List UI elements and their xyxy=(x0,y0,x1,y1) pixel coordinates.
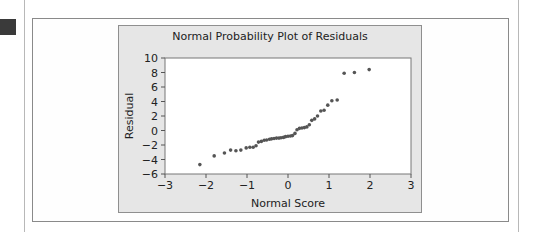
data-point xyxy=(353,71,357,75)
data-point xyxy=(308,123,312,127)
y-axis-label: Residual xyxy=(123,93,136,139)
scatter-plot: 1086420−2−4−6 −3−2−10123 Normal Score Re… xyxy=(0,0,535,232)
data-point xyxy=(229,148,233,152)
y-tick-label: 6 xyxy=(151,81,158,94)
x-tick-label: −3 xyxy=(157,179,173,192)
x-tick-label: −2 xyxy=(198,179,214,192)
data-point xyxy=(326,103,330,107)
data-point xyxy=(248,145,252,149)
data-point xyxy=(342,71,346,75)
x-axis-label: Normal Score xyxy=(251,197,325,210)
x-axis: −3−2−10123 xyxy=(157,174,415,192)
x-tick-label: 1 xyxy=(326,179,333,192)
y-tick-label: 2 xyxy=(151,110,158,123)
y-tick-label: −2 xyxy=(142,139,158,152)
x-tick-label: −1 xyxy=(239,179,255,192)
y-tick-label: 8 xyxy=(151,67,158,80)
data-point xyxy=(316,114,320,118)
data-point xyxy=(313,117,317,121)
data-point xyxy=(367,68,371,72)
data-point xyxy=(212,154,216,158)
data-point xyxy=(244,146,248,150)
y-tick-label: 0 xyxy=(151,125,158,138)
data-point xyxy=(322,108,326,112)
data-point xyxy=(223,151,227,155)
y-tick-label: 10 xyxy=(144,52,158,65)
data-point xyxy=(319,109,323,113)
data-point xyxy=(239,148,243,152)
data-point xyxy=(335,98,339,102)
y-axis: 1086420−2−4−6 xyxy=(142,52,165,181)
data-point xyxy=(234,149,238,153)
y-tick-label: 4 xyxy=(151,96,158,109)
x-tick-label: 2 xyxy=(367,179,374,192)
x-tick-label: 0 xyxy=(285,179,292,192)
plot-area xyxy=(165,58,411,174)
y-tick-label: −4 xyxy=(142,154,158,167)
data-point xyxy=(330,99,334,103)
data-point xyxy=(293,132,297,136)
x-tick-label: 3 xyxy=(408,179,415,192)
data-point xyxy=(254,144,258,148)
y-tick-label: −6 xyxy=(142,168,158,181)
data-point xyxy=(198,163,202,167)
